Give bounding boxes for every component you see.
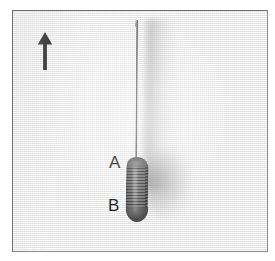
- annotation-label-b: B: [108, 197, 119, 214]
- photo-frame: A B: [12, 10, 268, 252]
- annotation-label-a: A: [109, 154, 120, 171]
- up-arrow-icon: [35, 31, 55, 71]
- figure-root: A B: [0, 0, 275, 261]
- coil-top-cap: [127, 157, 147, 167]
